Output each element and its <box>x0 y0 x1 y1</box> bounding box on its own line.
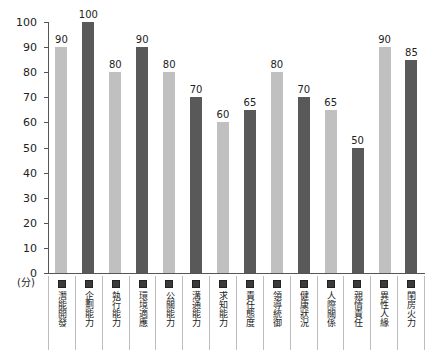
bar-value-label: 80 <box>163 60 176 70</box>
y-tick-label: 20 <box>23 217 37 228</box>
bar-series: 90100809080706065807065509085 <box>48 22 425 273</box>
legend-item-14: 閨房火力 <box>398 276 425 350</box>
bar-value-label: 70 <box>297 85 310 95</box>
bar-slot: 60 <box>210 22 237 273</box>
bar-slot: 70 <box>183 22 210 273</box>
legend-marker-icon <box>139 280 147 288</box>
bar: 85 <box>405 60 417 273</box>
bar: 90 <box>379 47 391 273</box>
legend-item-label: 閨房火力 <box>406 291 415 327</box>
y-tick-label: 100 <box>16 17 37 28</box>
legend-item-label: 親情責任 <box>353 291 362 327</box>
legend-item-label: 執行能力 <box>111 291 120 327</box>
bar-value-label: 90 <box>136 35 149 45</box>
bar-slot: 65 <box>317 22 344 273</box>
bar-slot: 65 <box>236 22 263 273</box>
bar: 80 <box>271 72 283 273</box>
legend-item-label: 領導統御 <box>272 291 281 327</box>
bar: 60 <box>217 122 229 273</box>
bar-slot: 90 <box>48 22 75 273</box>
bar-value-label: 100 <box>79 10 98 20</box>
bar: 50 <box>352 148 364 274</box>
bar: 70 <box>190 97 202 273</box>
y-tick-label: 90 <box>23 42 37 53</box>
bar: 70 <box>298 97 310 273</box>
bar: 65 <box>244 110 256 273</box>
legend-item-label: 企劃能力 <box>84 291 93 327</box>
legend-marker-icon <box>219 280 227 288</box>
legend-marker-icon <box>380 280 388 288</box>
legend-item-label: 潛能開發 <box>57 291 66 327</box>
bar-slot: 80 <box>156 22 183 273</box>
legend-item-11: 人際關係 <box>318 276 345 350</box>
legend-item-3: 執行能力 <box>103 276 130 350</box>
bar: 90 <box>55 47 67 273</box>
legend-item-4: 環境適應 <box>130 276 157 350</box>
bar-value-label: 80 <box>109 60 122 70</box>
legend-marker-icon <box>85 280 93 288</box>
legend-item-label: 溝通能力 <box>192 291 201 327</box>
bar: 80 <box>163 72 175 273</box>
legend-marker-icon <box>165 280 173 288</box>
bar-value-label: 60 <box>217 110 230 120</box>
legend-marker-icon <box>353 280 361 288</box>
legend-item-9: 領導統御 <box>264 276 291 350</box>
bar-slot: 80 <box>263 22 290 273</box>
legend-marker-icon <box>407 280 415 288</box>
legend-marker-icon <box>58 280 66 288</box>
bar-value-label: 50 <box>351 136 364 146</box>
legend-marker-icon <box>273 280 281 288</box>
bar: 100 <box>82 22 94 273</box>
bar-value-label: 85 <box>405 48 418 58</box>
legend-item-label: 健康狀況 <box>299 291 308 327</box>
category-legend: 潛能開發企劃能力執行能力環境適應公關能力溝通能力求知能力責任態度領導統御健康狀況… <box>48 276 425 350</box>
bar: 80 <box>109 72 121 273</box>
y-tick-label: 10 <box>23 242 37 253</box>
legend-item-7: 求知能力 <box>210 276 237 350</box>
y-tick-label: 60 <box>23 117 37 128</box>
bar-slot: 100 <box>75 22 102 273</box>
y-tick-label: 50 <box>23 142 37 153</box>
plot-area: 0102030405060708090100 90100809080706065… <box>48 22 425 274</box>
bar-slot: 90 <box>129 22 156 273</box>
y-tick-label: 80 <box>23 67 37 78</box>
bar-slot: 85 <box>398 22 425 273</box>
bar: 90 <box>136 47 148 273</box>
bar-value-label: 70 <box>190 85 203 95</box>
legend-item-label: 求知能力 <box>218 291 227 327</box>
bar-chart: 0102030405060708090100 90100809080706065… <box>0 0 431 353</box>
bar-slot: 50 <box>344 22 371 273</box>
bar-value-label: 90 <box>378 35 391 45</box>
legend-item-5: 公關能力 <box>156 276 183 350</box>
bar-value-label: 65 <box>244 98 257 108</box>
y-tick-label: 40 <box>23 167 37 178</box>
legend-marker-icon <box>112 280 120 288</box>
legend-item-2: 企劃能力 <box>76 276 103 350</box>
bar-slot: 80 <box>102 22 129 273</box>
y-tick-mark: 0 <box>44 273 48 274</box>
legend-item-10: 健康狀況 <box>291 276 318 350</box>
y-axis-unit-label: (分) <box>17 278 35 288</box>
bar-value-label: 90 <box>55 35 68 45</box>
legend-item-8: 責任態度 <box>237 276 264 350</box>
legend-item-label: 異性人緣 <box>380 291 389 327</box>
legend-marker-icon <box>192 280 200 288</box>
legend-marker-icon <box>246 280 254 288</box>
bar-value-label: 65 <box>324 98 337 108</box>
legend-item-label: 人際關係 <box>326 291 335 327</box>
legend-item-12: 親情責任 <box>344 276 371 350</box>
y-tick-label: 70 <box>23 92 37 103</box>
legend-item-6: 溝通能力 <box>183 276 210 350</box>
bar-slot: 70 <box>290 22 317 273</box>
x-axis-line <box>48 273 425 274</box>
legend-item-label: 責任態度 <box>245 291 254 327</box>
legend-item-label: 公關能力 <box>165 291 174 327</box>
legend-item-13: 異性人緣 <box>371 276 398 350</box>
legend-item-label: 環境適應 <box>138 291 147 327</box>
bar-value-label: 80 <box>270 60 283 70</box>
y-tick-label: 30 <box>23 192 37 203</box>
legend-marker-icon <box>300 280 308 288</box>
bar-slot: 90 <box>371 22 398 273</box>
legend-item-1: 潛能開發 <box>49 276 76 350</box>
legend-marker-icon <box>327 280 335 288</box>
